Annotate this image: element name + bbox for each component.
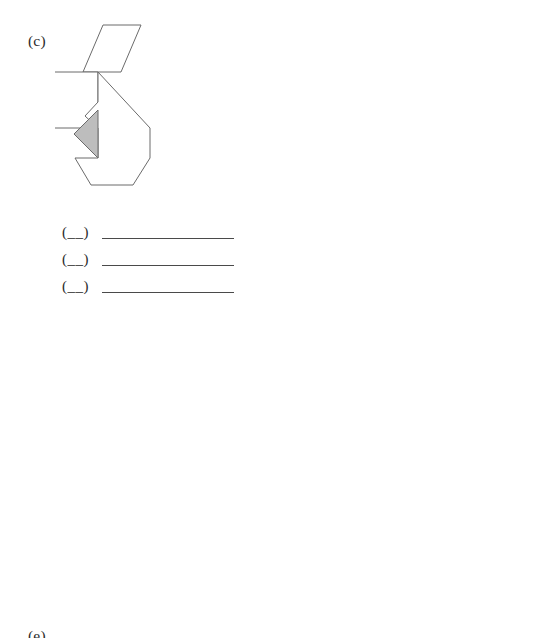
panel-label-e: (e): [28, 628, 46, 638]
panel-c: (c) (__) (__) (__): [0, 0, 268, 310]
panel-e: (e) (__) (__) (__): [0, 310, 268, 638]
panel-label-c: (c): [28, 33, 46, 49]
tangram-figure-c-svg: [55, 10, 235, 210]
panel-f: (f) (__) (__): [268, 310, 535, 638]
answer-line[interactable]: [102, 291, 234, 293]
answer-row[interactable]: (__): [62, 270, 234, 297]
answer-block-c: (__) (__) (__): [62, 216, 234, 297]
answer-paren: (__): [62, 225, 102, 243]
answer-row[interactable]: (__): [62, 216, 234, 243]
answer-paren: (__): [62, 252, 102, 270]
worksheet-page: (c) (__) (__) (__): [0, 0, 535, 638]
panel-d: (d) (__): [268, 0, 535, 310]
answer-line[interactable]: [102, 264, 234, 266]
answer-line[interactable]: [102, 237, 234, 239]
tangram-figure-e: [55, 620, 235, 638]
tangram-figure-c: [55, 10, 235, 214]
tangram-figure-e-svg: [55, 620, 235, 638]
answer-row[interactable]: (__): [62, 243, 234, 270]
answer-paren: (__): [62, 279, 102, 297]
shape-parallelogram: [83, 25, 141, 72]
